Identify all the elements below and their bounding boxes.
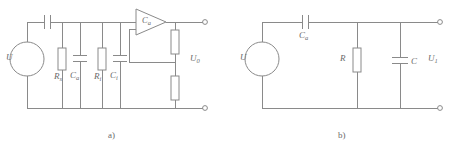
circuit-diagram-svg [0,0,456,155]
output-terminal-top-b [438,20,443,25]
voltage-source-b-body [245,42,279,76]
feedback-resistor-top-body [171,30,179,54]
source-label-a: U [6,53,13,62]
series-capacitor-ca-label-b: Ca [299,31,308,40]
wire-source-to-capacitor [27,22,44,42]
resistor-rs-body [58,48,66,70]
resistor-ri-label: Ri [94,72,101,81]
amplifier-triangle-body [136,9,166,35]
caption-a: a) [108,130,115,140]
capacitor-ca-label: Ca [70,71,79,80]
circuit-a-group [10,9,207,110]
output-terminal-bottom-a [203,106,208,111]
capacitor-c-label: C [411,57,417,66]
capacitor-ci-label: Ci [110,71,118,80]
output-voltage-label-a: U0 [190,54,200,63]
wire-source-to-capacitor-b [262,22,302,42]
voltage-source-a-body [10,42,44,76]
output-terminal-top-a [203,20,208,25]
feedback-resistor-bottom-body [171,76,179,100]
figure-root: U Rs Ca Ri Ci Ca U0 U Ca R C U1 a) b) [0,0,456,155]
amplifier-gain-label: Ca [142,16,151,25]
wire-bottom-rail-b [262,76,440,108]
output-voltage-label-b: U1 [428,54,438,63]
resistor-ri-body [98,48,106,70]
source-label-b: U [240,53,247,62]
resistor-rs-label: Rs [54,72,62,81]
output-terminal-bottom-b [438,106,443,111]
resistor-r-body [353,48,361,72]
resistor-r-label: R [340,54,346,63]
caption-b: b) [338,130,346,140]
